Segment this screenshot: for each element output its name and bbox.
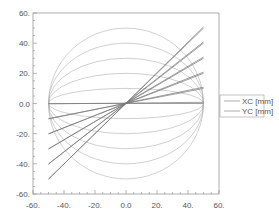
plot-area <box>49 27 204 179</box>
x-tick-label: -60. <box>26 201 40 210</box>
x-tick-label: 0.0 <box>120 201 132 210</box>
arc-curve <box>49 104 204 119</box>
x-tick-label: -40. <box>57 201 71 210</box>
arc-curve <box>49 58 204 103</box>
x-axis: -60.-40.-20.0.020.40.60. <box>26 190 224 210</box>
y-tick-label: 20. <box>19 69 30 78</box>
legend: XC [mm] YC [mm] <box>220 95 273 117</box>
legend-label-xc: XC [mm] <box>242 97 273 106</box>
arc-curve <box>49 104 204 149</box>
x-tick-label: 60. <box>213 201 224 210</box>
x-tick-label: 20. <box>151 201 162 210</box>
x-tick-label: -20. <box>88 201 102 210</box>
legend-label-yc: YC [mm] <box>242 107 273 116</box>
arc-curve <box>49 104 204 179</box>
y-tick-label: 0.0 <box>19 100 31 109</box>
chart: 60.40.20.0.0-20.-40.-60. -60.-40.-20.0.0… <box>0 0 279 223</box>
arc-curve <box>49 88 204 103</box>
y-tick-label: -60. <box>16 190 30 199</box>
y-axis: 60.40.20.0.0-20.-40.-60. <box>16 9 37 199</box>
x-tick-label: 40. <box>182 201 193 210</box>
y-tick-label: -20. <box>16 130 30 139</box>
y-tick-label: -40. <box>16 160 30 169</box>
y-tick-label: 60. <box>19 9 30 18</box>
y-tick-label: 40. <box>19 39 30 48</box>
